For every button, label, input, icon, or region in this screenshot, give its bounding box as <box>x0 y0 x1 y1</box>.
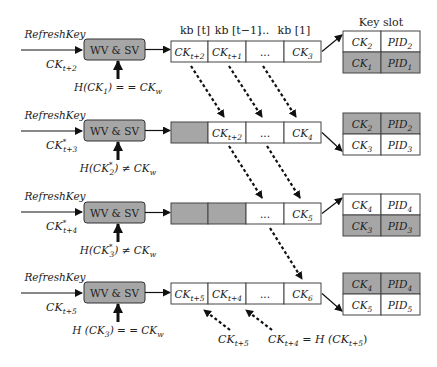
row-1: RefreshKeyCKt+2WV & SVH(CK1) = = CKwCKt+… <box>21 28 420 96</box>
key-slot-row: CK3PID3 <box>343 134 420 155</box>
refresh-key-value: CKt+5 <box>46 301 77 316</box>
hash-check-label: H (CK3) = = CKw <box>71 324 164 339</box>
dashed-arrow-icon <box>246 310 272 330</box>
key-slot-row: CK4PID4 <box>343 273 420 294</box>
rows: RefreshKeyCKt+2WV & SVH(CK1) = = CKwCKt+… <box>21 28 420 339</box>
arrow-icon <box>322 294 342 312</box>
refresh-key-label: RefreshKey <box>23 28 86 40</box>
kb-cell: CKt+2 <box>171 41 208 62</box>
kb-label-t: kb [t] <box>180 24 210 37</box>
key-slot-row: CK2PID2 <box>343 113 420 134</box>
refresh-key-label: RefreshKey <box>23 109 86 121</box>
refresh-key-label: RefreshKey <box>23 271 86 283</box>
refresh-key-value: CKt+2 <box>46 58 77 73</box>
kb-cell-label: ... <box>260 46 270 58</box>
dashed-arrow-icon <box>270 228 302 279</box>
dashed-arrow-icon <box>263 66 296 117</box>
kb-cell: CK4 <box>284 122 321 143</box>
kb-label-t-minus-1: kb [t−1] <box>215 24 261 37</box>
kb-label-1: kb [1] <box>278 24 311 37</box>
dashed-arrow-icon <box>267 146 300 198</box>
row-3: RefreshKeyCK*t+4WV & SVH(CK*3) ≠ CKw...C… <box>21 190 420 259</box>
kb-label-ellipsis: ... <box>259 24 270 37</box>
wv-sv-label: WV & SV <box>90 44 140 56</box>
arrow-icon <box>322 133 342 152</box>
dashed-arrow-icon <box>229 146 262 198</box>
refresh-key-label: RefreshKey <box>23 190 86 202</box>
kb-cell <box>171 203 208 224</box>
kb-cell <box>171 122 208 143</box>
bottom-label-left: CKt+5 <box>218 333 249 348</box>
dashed-arrow-icon <box>204 310 230 330</box>
kb-cell: CKt+1 <box>208 41 246 62</box>
kb-cell: CKt+5 <box>171 283 208 304</box>
kb-cell: CKt+4 <box>208 283 246 304</box>
key-refresh-diagram: kb [t] kb [t−1] ... kb [1] Key slot Refr… <box>0 0 437 367</box>
kb-cell: CK3 <box>284 41 321 62</box>
wv-sv-label: WV & SV <box>90 125 140 137</box>
kb-cell: ... <box>246 41 284 62</box>
kb-cell: ... <box>246 122 284 143</box>
key-slot-row: CK5PID5 <box>343 294 420 315</box>
key-slot-row: CK2PID2 <box>343 31 420 52</box>
kb-cell-label: ... <box>260 208 270 220</box>
kb-cell: ... <box>246 283 284 304</box>
bottom-labels: CKt+5 CKt+4 = H (CKt+5) <box>218 333 367 348</box>
kb-cell: CK5 <box>284 203 321 224</box>
wv-sv-label: WV & SV <box>90 207 140 219</box>
dashed-arrow-icon <box>229 66 262 117</box>
kb-cell: ... <box>246 203 284 224</box>
row-2: RefreshKeyCK*t+3WV & SVH(CK*2) ≠ CKwCKt+… <box>21 109 420 177</box>
hash-check-label: H(CK*2) ≠ CKw <box>79 161 157 177</box>
kb-cell: CKt+2 <box>208 122 246 143</box>
hash-check-label: H(CK*3) ≠ CKw <box>79 243 157 259</box>
key-slot-title: Key slot <box>359 16 404 29</box>
kb-cell: CK6 <box>284 283 321 304</box>
bottom-label-right: CKt+4 = H (CKt+5) <box>268 333 367 348</box>
dashed-arrow-icon <box>191 66 224 117</box>
kb-cell-label: ... <box>260 127 270 139</box>
arrow-icon <box>322 35 342 52</box>
key-slot-row: CK1PID1 <box>343 52 420 73</box>
refresh-key-value: CK*t+4 <box>46 219 77 235</box>
hash-check-label: H(CK1) = = CKw <box>73 81 163 96</box>
key-slot-row: CK3PID3 <box>343 215 420 236</box>
row-4: RefreshKeyCKt+5WV & SVH (CK3) = = CKwCKt… <box>21 271 420 339</box>
arrow-icon <box>322 198 342 214</box>
kb-cell <box>208 203 246 224</box>
key-slot-row: CK4PID4 <box>343 194 420 215</box>
kb-cell-label: ... <box>260 288 270 300</box>
refresh-key-value: CK*t+3 <box>46 138 77 154</box>
wv-sv-label: WV & SV <box>90 287 140 299</box>
